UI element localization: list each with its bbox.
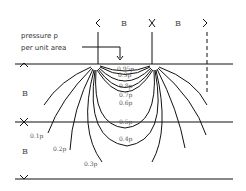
contour-label: 0.8p [119, 82, 133, 90]
annotation-line1: pressure p [21, 32, 58, 40]
tick-marker-icon [20, 175, 28, 179]
tick-marker-icon [149, 19, 155, 27]
depth-label-B-lower: B [22, 147, 28, 156]
width-label-B-top-right: B [175, 19, 181, 28]
pressure-bulb-diagram: B B B B pressure p per unit area 0.95p 0… [0, 0, 246, 191]
annotation-line2: per unit area [21, 44, 66, 52]
contour-label: 0.5p [119, 118, 133, 126]
contour-label: 0.7p [119, 91, 133, 99]
depth-label-B-upper: B [22, 89, 28, 98]
contour-label: 0.2p [53, 145, 67, 153]
contour-label: 0.4p [119, 135, 133, 143]
tick-marker-icon [203, 19, 207, 27]
contour-label: 0.3p [84, 160, 98, 168]
contour-label: 0.1p [30, 132, 44, 140]
width-label-B-top-left: B [121, 19, 127, 28]
contour-label: 0.9p [118, 71, 132, 79]
tick-marker-icon [96, 19, 100, 27]
pressure-arrow [82, 47, 120, 58]
pressure-contours [44, 66, 207, 162]
contour-label: 0.6p [119, 99, 133, 107]
